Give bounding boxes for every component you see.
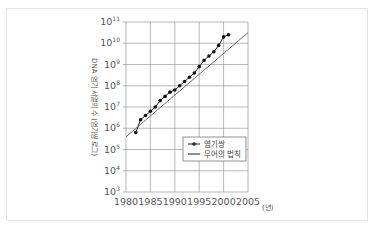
y-tick-label: 104 <box>104 164 120 176</box>
data-point-marker <box>188 75 192 79</box>
data-point-marker <box>202 58 206 62</box>
data-point-marker <box>212 50 216 54</box>
y-axis-label: DNA 염기 서열의 수 (염기쌍 로그) <box>90 58 99 156</box>
data-point-marker <box>134 131 138 135</box>
series-line-basepairs <box>136 35 229 133</box>
legend-label-moore: 무어의 법칙 <box>204 149 241 159</box>
x-tick-label: 2000 <box>212 196 236 207</box>
y-tick-label: 107 <box>104 100 120 112</box>
data-point-marker <box>183 80 187 84</box>
y-tick-label: 1011 <box>100 15 120 27</box>
y-axis-ticks: 10310410510610710810910101011 <box>100 15 120 197</box>
data-point-marker <box>217 44 221 48</box>
legend: 염기쌍 무어의 법칙 <box>183 137 246 161</box>
data-point-marker <box>173 88 177 92</box>
x-tick-label: 1995 <box>187 196 211 207</box>
x-tick-label: 1990 <box>163 196 187 207</box>
y-tick-label: 105 <box>104 143 120 155</box>
series <box>126 33 248 137</box>
x-axis-ticks: 198019851990199520002005 <box>114 196 260 207</box>
data-point-marker <box>163 95 167 99</box>
x-tick-label: 1985 <box>138 196 162 207</box>
x-tick-label: 1980 <box>114 196 138 207</box>
data-point-marker <box>222 35 226 39</box>
legend-marker-dot-icon <box>192 142 196 146</box>
data-point-marker <box>193 71 197 75</box>
data-point-marker <box>158 99 162 103</box>
data-point-marker <box>168 90 172 94</box>
chart: 10310410510610710810910101011 1980198519… <box>0 0 372 230</box>
data-point-marker <box>207 54 211 58</box>
data-point-marker <box>149 109 153 113</box>
series-line-moores-law <box>126 33 248 137</box>
grid <box>123 22 248 192</box>
y-tick-label: 1010 <box>100 36 120 48</box>
x-axis-unit: (년) <box>262 203 274 212</box>
data-point-marker <box>178 84 182 88</box>
data-point-marker <box>197 65 201 69</box>
data-point-marker <box>144 114 148 118</box>
data-point-marker <box>227 33 231 37</box>
legend-label-basepairs: 염기쌍 <box>204 139 225 149</box>
data-point-marker <box>139 118 143 122</box>
y-tick-label: 108 <box>104 79 120 91</box>
x-tick-label: 2005 <box>236 196 260 207</box>
data-point-marker <box>153 105 157 109</box>
y-tick-label: 106 <box>104 121 120 133</box>
y-tick-label: 109 <box>104 58 120 70</box>
